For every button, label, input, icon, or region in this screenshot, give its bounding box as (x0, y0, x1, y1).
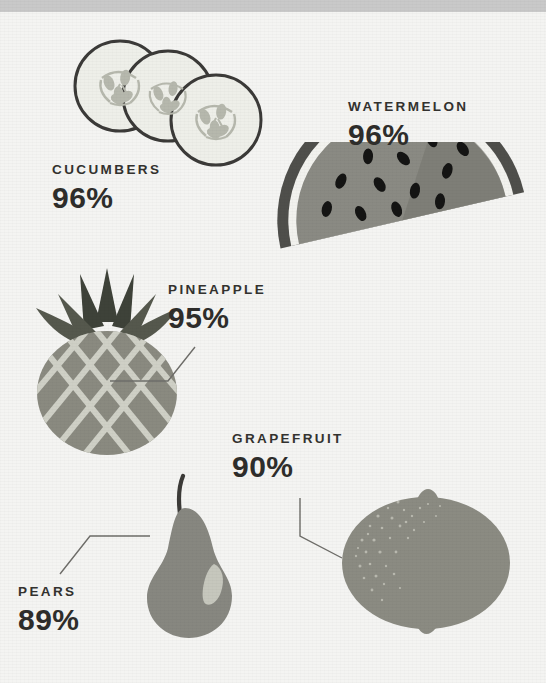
label-cucumbers-name: CUCUMBERS (52, 163, 161, 177)
label-grapefruit: GRAPEFRUIT 90% (232, 432, 344, 483)
label-watermelon-name: WATERMELON (348, 100, 469, 114)
watermelon-slice-icon (274, 142, 536, 310)
connector-pears (52, 528, 162, 576)
label-cucumbers-value: 96% (52, 181, 161, 215)
label-pears-name: PEARS (18, 585, 80, 599)
top-edge-band (0, 0, 546, 12)
infographic-poster: CUCUMBERS 96% (0, 0, 546, 683)
label-pineapple: PINEAPPLE 95% (168, 283, 266, 334)
label-cucumbers: CUCUMBERS 96% (52, 163, 161, 214)
label-pears: PEARS 89% (18, 585, 80, 636)
label-pineapple-value: 95% (168, 301, 266, 335)
label-watermelon: WATERMELON 96% (348, 100, 469, 151)
grapefruit-icon (336, 478, 516, 648)
connector-pineapple (110, 345, 220, 390)
label-pineapple-name: PINEAPPLE (168, 283, 266, 297)
label-grapefruit-value: 90% (232, 450, 344, 484)
label-watermelon-value: 96% (348, 118, 469, 152)
connector-grapefruit (294, 498, 354, 560)
cucumber-slices-icon (68, 38, 273, 173)
label-pears-value: 89% (18, 603, 80, 637)
label-grapefruit-name: GRAPEFRUIT (232, 432, 344, 446)
